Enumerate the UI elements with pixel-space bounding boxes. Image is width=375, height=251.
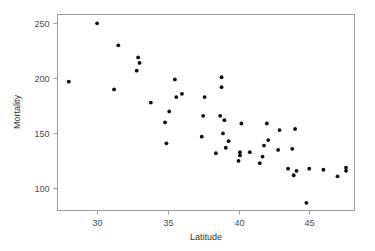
data-point — [278, 128, 282, 132]
data-point — [203, 95, 207, 99]
data-point — [305, 201, 309, 205]
y-axis-title: Mortality — [12, 95, 22, 130]
data-point — [201, 114, 205, 118]
data-point — [262, 144, 266, 148]
data-point — [321, 168, 325, 172]
data-point — [286, 167, 290, 171]
scatter-plot-figure: 30354045 100150200250 Latitude Mortality — [0, 0, 375, 251]
data-point — [248, 150, 252, 154]
data-point — [149, 101, 153, 105]
data-point — [293, 127, 297, 131]
data-point — [221, 132, 225, 136]
data-point — [165, 141, 169, 145]
x-tick-label: 35 — [163, 218, 173, 228]
data-point — [239, 122, 243, 126]
data-point — [261, 155, 265, 159]
x-tick-label: 30 — [92, 218, 102, 228]
data-point — [116, 43, 120, 47]
data-point — [67, 80, 71, 84]
data-point — [290, 147, 294, 151]
data-point — [174, 95, 178, 99]
data-point — [265, 122, 269, 126]
data-point — [220, 85, 224, 89]
data-point — [266, 138, 270, 142]
data-point — [136, 56, 140, 60]
x-axis-title: Latitude — [190, 232, 222, 242]
data-point — [227, 139, 231, 143]
data-point — [344, 166, 348, 170]
plot-svg: 30354045 100150200250 Latitude Mortality — [0, 0, 375, 251]
y-tick-label: 200 — [34, 74, 49, 84]
data-point — [258, 161, 262, 165]
y-axis-ticks: 100150200250 — [34, 19, 57, 194]
data-point — [112, 87, 116, 91]
plot-frame — [58, 15, 355, 211]
data-point — [173, 78, 177, 82]
x-tick-label: 40 — [234, 218, 244, 228]
data-point — [238, 150, 242, 154]
data-point — [180, 92, 184, 96]
data-point — [238, 154, 242, 158]
data-point — [218, 114, 222, 118]
data-point — [220, 75, 224, 79]
data-points-group — [67, 21, 348, 204]
data-point — [200, 135, 204, 139]
data-point — [295, 169, 299, 173]
data-point — [222, 118, 226, 122]
data-point — [167, 110, 171, 114]
data-point — [276, 148, 280, 152]
data-point — [224, 146, 228, 150]
data-point — [307, 167, 311, 171]
data-point — [214, 151, 218, 155]
data-point — [163, 121, 167, 125]
x-axis-ticks: 30354045 — [92, 211, 314, 228]
y-tick-label: 250 — [34, 19, 49, 29]
data-point — [138, 61, 142, 65]
x-tick-label: 45 — [304, 218, 314, 228]
y-tick-label: 150 — [34, 129, 49, 139]
data-point — [336, 174, 340, 178]
data-point — [344, 169, 348, 173]
plot-border — [58, 15, 355, 211]
data-point — [237, 159, 241, 163]
data-point — [292, 173, 296, 177]
y-tick-label: 100 — [34, 184, 49, 194]
data-point — [135, 69, 139, 73]
data-point — [95, 21, 99, 25]
